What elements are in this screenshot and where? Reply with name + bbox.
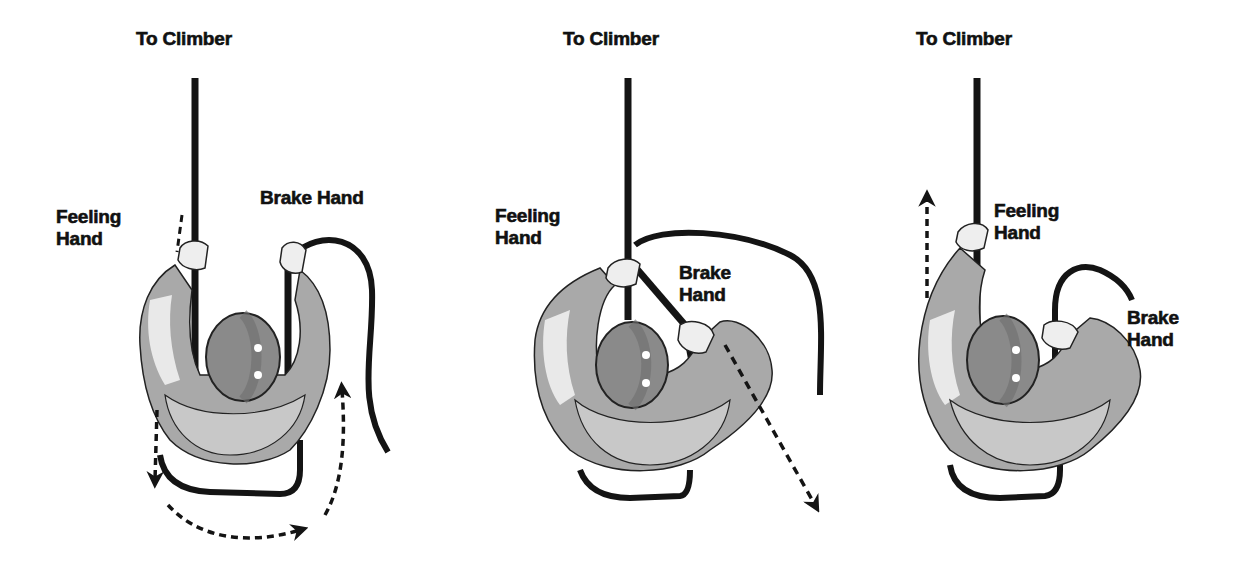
panel-2 — [534, 78, 821, 505]
brake-hand-shape — [280, 242, 306, 273]
feeling-hand-shape — [178, 241, 208, 270]
panel-2-to-climber-label: To Climber — [563, 28, 659, 50]
rope-around-waist — [580, 470, 690, 498]
belay-technique-diagram: To Climber Feeling Hand Brake Hand To Cl… — [0, 0, 1246, 568]
panel-1-brake-hand-label: Brake Hand — [260, 187, 364, 209]
feeling-hand-shape — [606, 259, 640, 287]
rope-brake-strand — [636, 268, 685, 325]
panel-2-brake-hand-label: Brake Hand — [679, 262, 731, 306]
panel-3-feeling-hand-label: Feeling Hand — [994, 200, 1059, 244]
up-arrow — [325, 390, 343, 515]
panel-3-brake-hand-label: Brake Hand — [1127, 307, 1179, 351]
panel-1-feeling-hand-label: Feeling Hand — [56, 206, 121, 250]
panel-1 — [140, 78, 388, 538]
arc-arrow — [168, 505, 300, 538]
down-arrow — [155, 410, 157, 480]
panel-2-feeling-hand-label: Feeling Hand — [495, 205, 560, 249]
feeling-hand-shape — [956, 223, 988, 250]
helmet — [967, 316, 1039, 404]
panel-3-to-climber-label: To Climber — [916, 28, 1012, 50]
panel-1-to-climber-label: To Climber — [136, 28, 232, 50]
belayer-figure — [140, 241, 330, 464]
panel-3 — [919, 78, 1141, 498]
belayer-figure — [919, 223, 1141, 470]
illustration-canvas — [0, 0, 1246, 568]
helmet — [206, 313, 280, 401]
helmet — [596, 322, 668, 408]
